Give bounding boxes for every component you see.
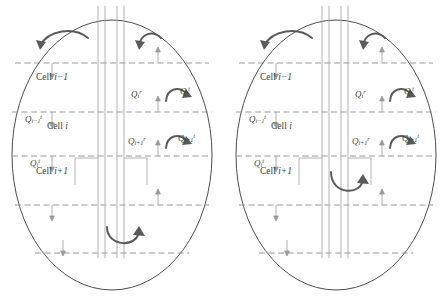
- arrowhead-top-left: [36, 40, 46, 50]
- flow-label-q-right-upper: Qit: [180, 85, 190, 96]
- arrowhead-top-right: [359, 40, 369, 50]
- cell-label-i-minus-1: Cell i−1: [36, 72, 68, 82]
- cell-label-i-minus-1: Cell i−1: [260, 72, 292, 82]
- panel-left: Cell i−1 Cell i Cell i+1 Qi−1t Qit Qir Q…: [0, 0, 224, 299]
- panel-right: Cell i−1 Cell i Cell i+1 Qi−1t Qit Qir Q…: [224, 0, 448, 299]
- reservoir-boundary-ellipse: [236, 20, 436, 290]
- thin-arrow-up-2: [380, 96, 385, 112]
- cell-label-i-plus-1: Cell i+1: [36, 166, 68, 176]
- cell-label-i: Cell i: [271, 121, 292, 131]
- thin-arrow-up-4: [380, 189, 385, 205]
- flow-label-q-right-lower: Qi+1t: [402, 132, 419, 143]
- arrowhead-bottom-u: [133, 226, 145, 236]
- thin-arrow-up-2: [156, 96, 161, 112]
- flow-label-q-mid-upper: Qir: [131, 88, 142, 99]
- arrowhead-bottom-u: [357, 174, 369, 184]
- thin-arrow-up-1: [156, 47, 161, 63]
- flow-label-q-left-lower: Qit: [254, 157, 264, 168]
- thin-arrow-down-4: [274, 205, 279, 221]
- thin-arrow-up-1: [380, 47, 385, 63]
- panel-right-graphics: [224, 0, 448, 299]
- panel-left-graphics: [0, 0, 224, 299]
- thin-arrow-up-4: [156, 189, 161, 205]
- perforation-left-elbow: [299, 158, 322, 185]
- flow-label-q-left-upper: Qi−1t: [249, 113, 266, 124]
- flow-label-q-left-lower: Qit: [30, 157, 40, 168]
- flow-label-q-mid-lower: Qi+1r: [352, 135, 370, 146]
- flow-label-q-left-upper: Qi−1t: [25, 113, 42, 124]
- arrowhead-top-left: [260, 40, 270, 50]
- figure-canvas: Cell i−1 Cell i Cell i+1 Qi−1t Qit Qir Q…: [0, 0, 448, 299]
- curved-arrow-top-left: [40, 31, 88, 46]
- thin-arrow-up-3: [380, 140, 385, 156]
- curved-arrow-heads: [36, 40, 192, 236]
- cell-label-i: Cell i: [47, 121, 68, 131]
- tubing-pipe-lines: [299, 6, 371, 258]
- tubing-pipe-lines: [75, 6, 147, 258]
- perforation-right-elbow: [124, 158, 147, 185]
- thin-arrow-down-5: [285, 240, 290, 256]
- cell-label-i-plus-1: Cell i+1: [260, 166, 292, 176]
- thin-arrow-up-3: [156, 140, 161, 156]
- reservoir-boundary-ellipse: [12, 20, 212, 290]
- curved-arrow-top-left: [264, 31, 312, 46]
- thin-arrow-down-4: [50, 205, 55, 221]
- perforation-left-elbow: [75, 158, 98, 185]
- flow-label-q-mid-lower: Qi+1r: [128, 135, 146, 146]
- thin-arrow-down-5: [61, 240, 66, 256]
- flow-label-q-mid-upper: Qir: [355, 88, 366, 99]
- arrowhead-top-right: [135, 40, 145, 50]
- flow-label-q-right-upper: Qit: [404, 85, 414, 96]
- flow-label-q-right-lower: Qi+1t: [178, 132, 195, 143]
